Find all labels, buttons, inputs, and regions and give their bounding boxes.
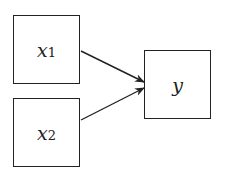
node-y: y bbox=[144, 50, 211, 119]
node-x1: x1 bbox=[13, 15, 80, 84]
node-x1-subscript: 1 bbox=[48, 45, 56, 60]
edge-x1-to-y bbox=[81, 51, 144, 82]
node-x1-label: x bbox=[37, 39, 48, 61]
node-x2: x2 bbox=[13, 98, 80, 167]
node-y-label: y bbox=[172, 74, 183, 96]
node-x2-subscript: 2 bbox=[48, 128, 56, 143]
node-x2-label: x bbox=[37, 122, 48, 144]
edge-x2-to-y bbox=[81, 88, 144, 120]
